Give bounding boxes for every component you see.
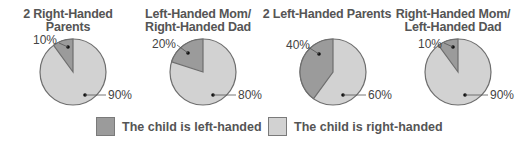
pie-chart-right-handed-mom-left-handed-dad: Right-Handed Mom/ Left-Handed Dad 10% 90… <box>388 0 518 112</box>
right-handed-swatch <box>268 117 287 136</box>
left-handed-percent: 20% <box>152 37 176 51</box>
legend-label: The child is left-handed <box>122 120 262 134</box>
right-handed-percent: 90% <box>490 88 514 102</box>
pie-chart-left-handed-mom-right-handed-dad: Left-Handed Mom/ Right-Handed Dad 20% 80… <box>133 0 263 112</box>
left-handed-percent: 10% <box>33 33 57 47</box>
legend: The child is left-handed The child is ri… <box>0 117 518 139</box>
left-handed-percent: 10% <box>418 37 442 51</box>
left-handed-percent: 40% <box>286 38 310 52</box>
pie: 40% 60% <box>262 0 392 112</box>
legend-label: The child is right-handed <box>294 120 443 134</box>
pie: 10% 90% <box>388 0 518 112</box>
pie-chart-2-right-handed-parents: 2 Right-Handed Parents 10% 90% <box>3 0 133 112</box>
legend-item-left-handed: The child is left-handed <box>96 117 262 136</box>
pie-chart-2-left-handed-parents: 2 Left-Handed Parents 40% 60% <box>262 0 392 112</box>
pie: 20% 80% <box>133 0 263 112</box>
left-handed-swatch <box>96 117 115 136</box>
legend-item-right-handed: The child is right-handed <box>268 117 443 136</box>
pie: 10% 90% <box>3 0 133 112</box>
right-handed-percent: 80% <box>238 88 262 102</box>
right-handed-percent: 90% <box>108 88 132 102</box>
